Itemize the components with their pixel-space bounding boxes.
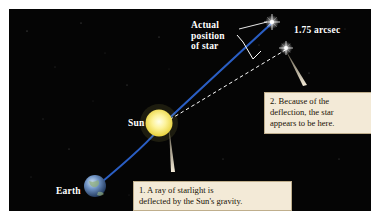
sun-disc bbox=[140, 104, 178, 142]
callout-step-1: 1. A ray of starlight is deflected by th… bbox=[133, 181, 292, 211]
star-field-panel: Actual position of star 1.75 arcsec Sun … bbox=[9, 9, 371, 211]
earth-globe bbox=[84, 175, 106, 197]
label-actual-position: Actual position of star bbox=[191, 20, 249, 52]
label-deflection-angle: 1.75 arcsec bbox=[294, 25, 340, 36]
figure-gravitational-lensing: Actual position of star 1.75 arcsec Sun … bbox=[0, 0, 381, 222]
callout-step-2: 2. Because of the deflection, the star a… bbox=[264, 92, 371, 134]
label-earth: Earth bbox=[56, 186, 81, 197]
label-sun: Sun bbox=[128, 118, 144, 129]
